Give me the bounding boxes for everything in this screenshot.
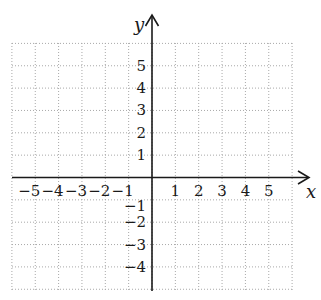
y-tick-label: 3 [136,101,146,119]
y-tick-label: 5 [136,57,146,75]
y-tick-label: 4 [136,79,146,97]
coordinate-plane: y x −5−4−3−2−112345 54321−1−2−3−4 [0,0,321,300]
y-tick-label: −4 [124,258,146,276]
x-tick-label: −2 [88,182,110,200]
y-tick-labels: 54321−1−2−3−4 [124,57,146,276]
x-tick-label: 1 [171,182,181,200]
x-tick-label: 5 [264,182,274,200]
y-tick-label: −1 [124,197,146,215]
y-tick-label: 1 [136,146,146,164]
x-tick-label: 4 [241,182,251,200]
x-axis-label: x [306,181,316,202]
x-tick-label: 3 [217,182,227,200]
x-tick-label: −3 [65,182,87,200]
y-tick-label: −3 [124,236,146,254]
y-tick-label: 2 [136,124,146,142]
x-tick-label: 2 [194,182,204,200]
y-tick-label: −2 [124,213,146,231]
y-axis-label: y [133,14,145,35]
x-tick-label: −5 [18,182,40,200]
x-tick-label: −4 [42,182,64,200]
